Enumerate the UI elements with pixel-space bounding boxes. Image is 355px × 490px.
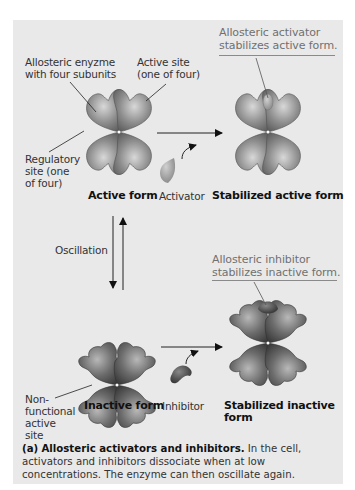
regulatory-label-line1: Regulatory [25,153,80,165]
enzyme-label-line1: Allosteric enyzme [25,56,116,68]
oscillation-label: Oscillation [55,244,108,256]
activator-callout: Allosteric activator stabilizes active f… [219,26,337,52]
active-site-label-line2: (one of four) [137,68,200,80]
activator-label: Activator [159,190,205,202]
regulatory-label-line3: of four) [25,177,80,189]
inhibitor-callout: Allosteric inhibitor stabilizes inactive… [212,253,340,279]
inhibitor-callout-rule [212,280,337,281]
stabilized-inactive-line2: form [224,412,335,424]
activator-callout-line2: stabilizes active form. [219,39,337,52]
active-site-label: Active site (one of four) [137,56,200,80]
inhibitor-callout-line2: stabilizes inactive form. [212,266,340,279]
inhibitor-molecule [170,365,191,383]
activator-molecule [160,158,175,183]
inactive-form-enzyme [79,343,156,428]
caption-title: Allosteric activators and inhibitors. [41,443,244,454]
stabilized-active-form-label: Stabilized active form [212,190,344,202]
active-site-label-line1: Active site [137,56,200,68]
stabilized-inactive-form-label: Stabilized inactive form [224,400,335,424]
regulatory-label-line2: site (one [25,165,80,177]
figure-caption: (a) Allosteric activators and inhibitors… [22,442,340,481]
caption-tag: (a) [22,443,38,454]
nonfunctional-label-line1: Non- [25,393,75,405]
nonfunctional-label-line2: functional [25,405,75,417]
activator-binding-arrow [182,145,196,159]
enzyme-label: Allosteric enyzme with four subunits [25,56,116,80]
inactive-form-label: Inactive form [84,400,164,412]
inhibitor-label: Inhibitor [162,400,204,412]
inhibitor-binding-arrow [186,351,198,364]
nonfunctional-label-line3: active [25,417,75,429]
nonfunctional-site-label: Non- functional active site [25,393,75,441]
activator-callout-rule [219,55,335,56]
regulatory-site-label: Regulatory site (one of four) [25,153,80,189]
stabilized-inactive-enzyme [230,301,307,386]
nonfunctional-label-line4: site [25,429,75,441]
active-form-label: Active form [88,190,158,202]
enzyme-label-line2: with four subunits [25,68,116,80]
activator-callout-line1: Allosteric activator [219,26,337,39]
inhibitor-callout-line1: Allosteric inhibitor [212,253,340,266]
active-form-enzyme [87,90,152,175]
stabilized-active-enzyme [236,90,301,175]
